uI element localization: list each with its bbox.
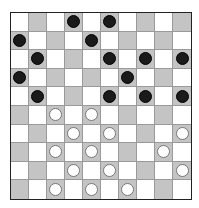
board-square-r0-c9[interactable] [173,13,191,32]
board-square-r5-c9[interactable] [173,106,191,125]
board-square-r0-c4[interactable] [83,13,101,32]
board-square-r0-c6[interactable] [119,13,137,32]
board-square-r7-c9[interactable] [173,143,191,162]
board-square-r7-c0[interactable] [11,143,29,162]
white-piece[interactable] [49,145,62,158]
black-piece[interactable] [103,15,116,28]
board-square-r8-c5[interactable] [101,162,119,181]
white-piece[interactable] [103,164,116,177]
board-square-r3-c1[interactable] [29,69,47,88]
board-square-r7-c6[interactable] [119,143,137,162]
board-square-r0-c7[interactable] [137,13,155,32]
board-square-r4-c6[interactable] [119,87,137,106]
board-square-r0-c2[interactable] [47,13,65,32]
board-square-r4-c4[interactable] [83,87,101,106]
board-square-r4-c7[interactable] [137,87,155,106]
board-square-r2-c8[interactable] [155,50,173,69]
board-square-r9-c9[interactable] [173,180,191,199]
white-piece[interactable] [67,127,80,140]
board-square-r9-c5[interactable] [101,180,119,199]
white-piece[interactable] [121,183,134,196]
black-piece[interactable] [13,34,26,47]
board-square-r5-c2[interactable] [47,106,65,125]
black-piece[interactable] [103,52,116,65]
board-square-r3-c9[interactable] [173,69,191,88]
board-square-r8-c7[interactable] [137,162,155,181]
board-square-r6-c9[interactable] [173,125,191,144]
board-square-r2-c5[interactable] [101,50,119,69]
white-piece[interactable] [176,164,189,177]
board-square-r7-c8[interactable] [155,143,173,162]
board-square-r8-c4[interactable] [83,162,101,181]
board-square-r9-c7[interactable] [137,180,155,199]
board-square-r6-c5[interactable] [101,125,119,144]
board-square-r6-c3[interactable] [65,125,83,144]
white-piece[interactable] [49,183,62,196]
board-square-r6-c2[interactable] [47,125,65,144]
black-piece[interactable] [121,71,134,84]
board-square-r9-c6[interactable] [119,180,137,199]
board-square-r8-c6[interactable] [119,162,137,181]
white-piece[interactable] [85,108,98,121]
board-square-r3-c7[interactable] [137,69,155,88]
board-square-r9-c8[interactable] [155,180,173,199]
black-piece[interactable] [31,52,44,65]
board-square-r5-c5[interactable] [101,106,119,125]
white-piece[interactable] [157,145,170,158]
black-piece[interactable] [176,90,189,103]
board-square-r6-c8[interactable] [155,125,173,144]
board-square-r5-c0[interactable] [11,106,29,125]
board-square-r4-c8[interactable] [155,87,173,106]
white-piece[interactable] [176,127,189,140]
board-square-r7-c7[interactable] [137,143,155,162]
board-square-r4-c3[interactable] [65,87,83,106]
board-square-r2-c3[interactable] [65,50,83,69]
black-piece[interactable] [139,90,152,103]
board-square-r3-c3[interactable] [65,69,83,88]
board-square-r7-c4[interactable] [83,143,101,162]
board-square-r0-c0[interactable] [11,13,29,32]
board-square-r1-c0[interactable] [11,32,29,51]
white-piece[interactable] [49,108,62,121]
board-square-r5-c8[interactable] [155,106,173,125]
black-piece[interactable] [85,34,98,47]
board-square-r1-c7[interactable] [137,32,155,51]
board-square-r3-c0[interactable] [11,69,29,88]
board-square-r8-c9[interactable] [173,162,191,181]
black-piece[interactable] [139,52,152,65]
board-square-r5-c3[interactable] [65,106,83,125]
board-square-r3-c6[interactable] [119,69,137,88]
white-piece[interactable] [67,164,80,177]
board-square-r3-c2[interactable] [47,69,65,88]
board-square-r1-c1[interactable] [29,32,47,51]
board-square-r2-c9[interactable] [173,50,191,69]
board-square-r1-c5[interactable] [101,32,119,51]
black-piece[interactable] [176,52,189,65]
board-square-r9-c3[interactable] [65,180,83,199]
board-square-r7-c3[interactable] [65,143,83,162]
board-square-r6-c0[interactable] [11,125,29,144]
board-square-r8-c0[interactable] [11,162,29,181]
board-square-r5-c1[interactable] [29,106,47,125]
board-square-r9-c0[interactable] [11,180,29,199]
board-square-r8-c1[interactable] [29,162,47,181]
board-square-r4-c5[interactable] [101,87,119,106]
board-square-r0-c5[interactable] [101,13,119,32]
board-square-r8-c8[interactable] [155,162,173,181]
board-square-r6-c1[interactable] [29,125,47,144]
white-piece[interactable] [85,183,98,196]
board-square-r4-c2[interactable] [47,87,65,106]
board-square-r0-c3[interactable] [65,13,83,32]
white-piece[interactable] [85,145,98,158]
board-square-r1-c3[interactable] [65,32,83,51]
board-square-r7-c5[interactable] [101,143,119,162]
board-square-r1-c6[interactable] [119,32,137,51]
board-square-r2-c6[interactable] [119,50,137,69]
board-square-r8-c2[interactable] [47,162,65,181]
board-square-r0-c8[interactable] [155,13,173,32]
board-square-r4-c9[interactable] [173,87,191,106]
board-square-r1-c2[interactable] [47,32,65,51]
board-square-r2-c2[interactable] [47,50,65,69]
board-square-r6-c6[interactable] [119,125,137,144]
board-square-r7-c2[interactable] [47,143,65,162]
